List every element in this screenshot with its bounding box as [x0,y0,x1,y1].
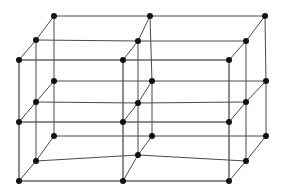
lattice-node [33,37,39,43]
lattice-node [243,158,249,164]
lattice-edge [229,102,246,122]
lattice-node [51,133,57,139]
lattice-node [33,158,39,164]
lattice-node [16,57,22,63]
lattice-edge [36,136,54,161]
lattice-edge [138,81,152,103]
lattice-edge [265,16,266,81]
lattice-edge [138,155,246,161]
lattice-node [263,78,269,84]
lattice-node [120,57,126,63]
lattice-node [120,178,126,184]
lattice-node [16,178,22,184]
lattice-node [149,78,155,84]
lattice-node [262,13,268,19]
lattice-node [135,100,141,106]
lattice-node [51,13,57,19]
lattice-node [16,119,22,125]
lattice-node [135,152,141,158]
lattice-edge [138,16,150,41]
lattice-edge [138,136,152,155]
lattice-edge [36,40,138,41]
lattice-node [135,38,141,44]
lattice-edge [150,16,152,81]
lattice-edge [246,16,265,41]
lattice-edge [123,155,138,181]
lattice-edge [19,102,36,122]
lattice-node [147,13,153,19]
lattice-edge [19,161,36,181]
lattice-node [243,99,249,105]
lattice-edge [246,136,266,161]
lattice-edges [19,16,266,181]
lattice-edge [229,161,246,181]
lattice-edge [123,41,138,60]
lattice-node [243,38,249,44]
lattice-edge [19,40,36,60]
lattice-edge [36,81,54,102]
lattice-node [226,178,232,184]
lattice-edge [138,102,246,103]
lattice-edge [229,41,246,60]
lattice-edge [36,16,54,40]
lattice-node [226,57,232,63]
lattice-node [263,133,269,139]
lattice-node [149,133,155,139]
lattice-diagram [0,0,283,190]
lattice-node [33,99,39,105]
lattice-edge [123,103,138,122]
lattice-figure [0,0,283,190]
lattice-edge [246,81,266,102]
lattice-node [120,119,126,125]
lattice-node [226,119,232,125]
lattice-node [51,78,57,84]
